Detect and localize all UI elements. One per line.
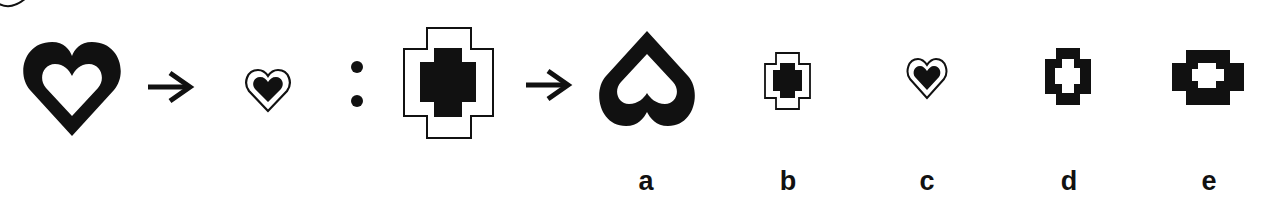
cross-figure-outlined [403, 27, 495, 140]
colon-separator-dot-top [351, 61, 363, 73]
option-e-figure [1172, 50, 1246, 107]
arrow-right-icon [524, 68, 574, 102]
option-b-label[interactable]: b [780, 166, 797, 197]
option-a-label[interactable]: a [638, 166, 653, 197]
colon-separator-dot-bottom [351, 95, 363, 107]
option-d-label[interactable]: d [1061, 166, 1078, 197]
option-a-figure [598, 30, 696, 128]
option-b-figure [764, 52, 812, 110]
option-d-figure [1044, 48, 1094, 106]
option-c-figure [905, 57, 949, 101]
heart-figure-large [22, 38, 122, 140]
arrow-right-icon [146, 70, 196, 104]
question-number-badge [0, 0, 40, 14]
option-e-label[interactable]: e [1201, 166, 1216, 197]
option-c-label[interactable]: c [919, 166, 934, 197]
heart-figure-small-outlined [244, 68, 292, 114]
